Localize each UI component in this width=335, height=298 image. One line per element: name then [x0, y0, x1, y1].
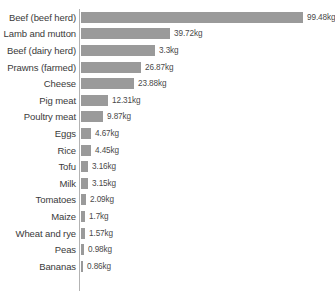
bar	[81, 28, 170, 39]
bar	[81, 78, 134, 89]
bar	[81, 211, 85, 222]
bar-value-label: 3.15kg	[92, 179, 116, 188]
bar	[81, 128, 91, 139]
bar-and-value: 3.16kg	[81, 158, 116, 175]
bar-row: Maize1.7kg	[0, 208, 335, 225]
bar-row: Bananas0.86kg	[0, 258, 335, 275]
category-label: Beef (dairy herd)	[0, 45, 76, 56]
bar-row: Pig meat12.31kg	[0, 92, 335, 109]
category-label: Milk	[0, 178, 76, 189]
bar	[81, 62, 141, 73]
bar-row: Milk3.15kg	[0, 175, 335, 192]
bar-row: Cheese23.88kg	[0, 75, 335, 92]
bar-and-value: 3.15kg	[81, 175, 116, 192]
bar	[81, 111, 103, 122]
bar-and-value: 4.67kg	[81, 125, 119, 142]
category-label: Wheat and rye	[0, 228, 76, 239]
bar-and-value: 1.7kg	[81, 208, 109, 225]
bar	[81, 161, 88, 172]
bar-row: Lamb and mutton39.72kg	[0, 26, 335, 43]
bar-row: Beef (dairy herd)3.3kg	[0, 42, 335, 59]
category-label: Rice	[0, 145, 76, 156]
bar	[81, 12, 303, 23]
bar-and-value: 12.31kg	[81, 92, 140, 109]
bar-value-label: 3.16kg	[92, 162, 116, 171]
bar-row: Tomatoes2.09kg	[0, 192, 335, 209]
bar-value-label: 1.7kg	[89, 212, 109, 221]
bar-value-label: 4.45kg	[95, 146, 119, 155]
bar	[81, 244, 84, 255]
bar-row: Beef (beef herd)99.48kg	[0, 9, 335, 26]
bar-row: Poultry meat9.87kg	[0, 109, 335, 126]
bar-value-label: 1.57kg	[89, 229, 113, 238]
bar	[81, 194, 86, 205]
bar-and-value: 9.87kg	[81, 109, 131, 126]
category-label: Maize	[0, 211, 76, 222]
bar-and-value: 0.98kg	[81, 241, 112, 258]
bar	[81, 45, 155, 56]
bar-value-label: 99.48kg	[307, 13, 335, 22]
bar-value-label: 12.31kg	[112, 96, 140, 105]
bar-row: Eggs4.67kg	[0, 125, 335, 142]
bar-and-value: 23.88kg	[81, 75, 166, 92]
bar-and-value: 4.45kg	[81, 142, 119, 159]
bar-value-label: 26.87kg	[145, 63, 173, 72]
bar-chart: Beef (beef herd)99.48kgLamb and mutton39…	[0, 0, 335, 298]
bar-row: Rice4.45kg	[0, 142, 335, 159]
category-label: Tomatoes	[0, 194, 76, 205]
bar-and-value: 99.48kg	[81, 9, 335, 26]
bar-and-value: 26.87kg	[81, 59, 173, 76]
bar-rows: Beef (beef herd)99.48kgLamb and mutton39…	[0, 9, 335, 275]
bar-row: Tofu3.16kg	[0, 158, 335, 175]
bar	[81, 178, 88, 189]
bar-value-label: 4.67kg	[95, 129, 119, 138]
bar-value-label: 23.88kg	[138, 79, 166, 88]
bar-value-label: 9.87kg	[107, 112, 131, 121]
bar-value-label: 0.86kg	[87, 262, 111, 271]
category-label: Lamb and mutton	[0, 28, 76, 39]
bar-value-label: 39.72kg	[174, 29, 202, 38]
category-label: Poultry meat	[0, 111, 76, 122]
category-label: Peas	[0, 244, 76, 255]
bar-and-value: 1.57kg	[81, 225, 113, 242]
category-label: Prawns (farmed)	[0, 62, 76, 73]
category-label: Cheese	[0, 78, 76, 89]
bar-value-label: 0.98kg	[88, 245, 112, 254]
bar-value-label: 3.3kg	[159, 46, 179, 55]
bar-row: Peas0.98kg	[0, 241, 335, 258]
bar-and-value: 0.86kg	[81, 258, 111, 275]
category-label: Tofu	[0, 161, 76, 172]
bar-and-value: 2.09kg	[81, 192, 114, 209]
category-label: Beef (beef herd)	[0, 12, 76, 23]
bar	[81, 95, 108, 106]
bar	[81, 145, 91, 156]
bar-and-value: 39.72kg	[81, 26, 202, 43]
category-label: Eggs	[0, 128, 76, 139]
bar-and-value: 3.3kg	[81, 42, 179, 59]
bar-row: Prawns (farmed)26.87kg	[0, 59, 335, 76]
bar	[81, 261, 83, 272]
bar-row: Wheat and rye1.57kg	[0, 225, 335, 242]
bar	[81, 228, 85, 239]
bar-value-label: 2.09kg	[90, 195, 114, 204]
category-label: Pig meat	[0, 95, 76, 106]
category-label: Bananas	[0, 261, 76, 272]
